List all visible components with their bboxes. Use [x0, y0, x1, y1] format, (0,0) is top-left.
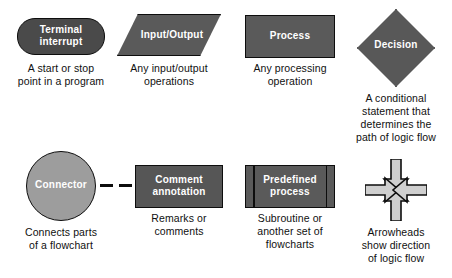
predefined-process-shape: Predefined process — [245, 165, 335, 208]
decision-caption: A conditional statement that determines … — [340, 92, 452, 144]
input-output-caption: Any input/output operations — [110, 62, 228, 88]
flowchart-symbol-sheet: Terminal interrupt A start or stop point… — [0, 0, 452, 278]
symbol-card-decision: Decision A conditional statement that de… — [340, 8, 452, 144]
dashed-link-line — [100, 184, 132, 187]
arrowheads-wrap — [365, 159, 427, 221]
symbol-card-process: Process Any processing operation — [232, 14, 348, 88]
input-output-shape-slot: Input/Output — [110, 12, 228, 58]
symbol-card-predefined-process: Predefined process Subroutine or another… — [232, 164, 348, 251]
decision-shape-slot: Decision — [340, 8, 452, 88]
connector-label: Connector — [35, 179, 87, 191]
process-label: Process — [270, 30, 310, 42]
input-output-label-slot: Input/Output — [117, 14, 221, 56]
symbol-card-arrowheads: Arrowheads show direction of logic flow — [340, 158, 452, 265]
comment-annotation-shape-slot: Comment annotation — [132, 164, 226, 208]
symbol-card-input-output: Input/Output Any input/output operations — [110, 12, 228, 88]
decision-wrap: Decision — [357, 9, 435, 87]
process-caption: Any processing operation — [232, 62, 348, 88]
connector-shape: Connector — [26, 151, 96, 221]
symbol-card-terminal: Terminal interrupt A start or stop point… — [2, 14, 120, 88]
symbol-card-comment-annotation: Comment annotation Remarks or comments — [132, 164, 226, 238]
decision-label-slot: Decision — [357, 39, 435, 51]
terminal-caption: A start or stop point in a program — [2, 62, 120, 88]
predefined-process-caption: Subroutine or another set of flowcharts — [232, 212, 348, 251]
converging-arrows-icon — [365, 159, 427, 221]
terminal-shape: Terminal interrupt — [17, 18, 105, 55]
dash-segment — [100, 184, 113, 187]
dash-segment — [119, 184, 132, 187]
symbol-card-connector: Connector Connects parts of a flowchart — [2, 150, 120, 252]
input-output-wrap: Input/Output — [117, 14, 221, 56]
process-shape-slot: Process — [232, 14, 348, 58]
predefined-process-shape-slot: Predefined process — [232, 164, 348, 208]
decision-label: Decision — [374, 39, 417, 51]
process-shape: Process — [245, 15, 335, 58]
predefined-process-label: Predefined process — [263, 174, 317, 198]
input-output-label: Input/Output — [141, 29, 203, 41]
terminal-label: Terminal interrupt — [40, 24, 83, 48]
terminal-shape-slot: Terminal interrupt — [2, 14, 120, 58]
arrowheads-caption: Arrowheads show direction of logic flow — [340, 226, 452, 265]
comment-annotation-shape: Comment annotation — [135, 165, 223, 208]
comment-annotation-label: Comment annotation — [152, 174, 205, 198]
arrowheads-shape-slot — [340, 158, 452, 222]
comment-annotation-caption: Remarks or comments — [132, 212, 226, 238]
connector-caption: Connects parts of a flowchart — [2, 226, 120, 252]
